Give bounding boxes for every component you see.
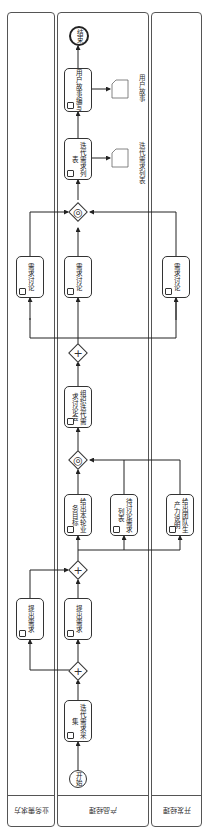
task-goal[interactable]: 给出本轮业务目标 <box>64 494 92 536</box>
task-iter-list[interactable]: 迭代需求列表 <box>64 138 92 180</box>
user-icon <box>67 630 74 637</box>
task-capacity[interactable]: 给出团队生产力说明 <box>166 494 194 536</box>
circle-icon: ◎ <box>68 455 88 466</box>
user-icon <box>169 526 176 533</box>
artifact-story: 用户故事 <box>136 74 146 102</box>
task-collect[interactable]: 迭代需求采集 <box>64 700 92 742</box>
user-icon <box>67 732 74 739</box>
plus-icon: + <box>68 666 88 677</box>
user-icon <box>67 418 74 425</box>
user-icon <box>67 102 74 109</box>
task-story[interactable]: 用户故事编写 <box>64 68 92 112</box>
end-event: 结束 <box>69 26 89 46</box>
task-raise-pm[interactable]: 提出需求 <box>64 598 92 640</box>
plus-icon: + <box>68 565 88 576</box>
user-icon <box>67 170 74 177</box>
user-icon <box>19 288 26 295</box>
circle-icon: ◎ <box>68 207 88 218</box>
artifact-iter-list: 迭代需求列表 <box>136 142 146 184</box>
task-discuss-biz[interactable]: 需求讨论 <box>16 256 44 298</box>
task-meeting[interactable]: 组织迭代需求讨论会 <box>64 386 92 428</box>
task-discuss-pm[interactable]: 需求讨论 <box>64 256 92 298</box>
task-discuss-dev[interactable]: 需求讨论 <box>162 256 190 298</box>
task-pending[interactable]: 待讨论需求列表 <box>110 494 138 536</box>
user-icon <box>67 288 74 295</box>
user-icon <box>67 526 74 533</box>
task-raise-biz[interactable]: 提出需求 <box>16 598 44 640</box>
plus-icon: + <box>68 348 88 359</box>
user-icon <box>113 526 120 533</box>
user-icon <box>165 288 172 295</box>
user-icon <box>19 630 26 637</box>
start-event: 开始 <box>69 770 87 788</box>
sequence-flows <box>0 0 211 833</box>
